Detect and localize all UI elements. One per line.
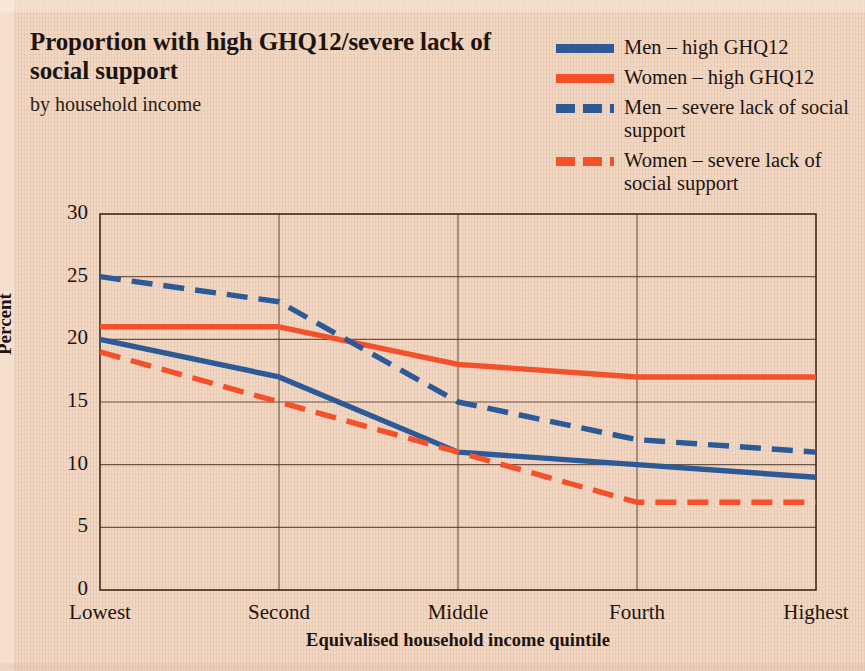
chart-figure: Proportion with high GHQ12/severe lack o…: [0, 0, 865, 671]
chart-plot-svg: [0, 0, 865, 671]
